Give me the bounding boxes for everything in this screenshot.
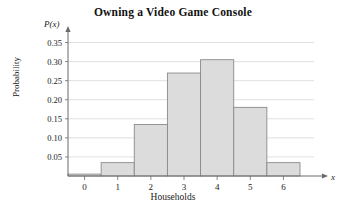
x-tick-label: 0 xyxy=(82,182,87,192)
x-tick-label: 6 xyxy=(281,182,286,192)
y-tick-label: 0.15 xyxy=(47,114,62,124)
y-tick-label: 0.10 xyxy=(47,133,62,143)
x-tick-label: 1 xyxy=(115,182,120,192)
y-tick-label: 0.35 xyxy=(47,38,62,48)
bar-2 xyxy=(134,125,167,176)
bar-1 xyxy=(101,163,134,176)
y-tick-label: 0.30 xyxy=(47,57,62,67)
x-tick-label: 3 xyxy=(182,182,187,192)
y-axis-ticks: 0.050.100.150.200.250.300.35 xyxy=(47,38,68,162)
bars xyxy=(68,60,300,176)
x-tick-label: 2 xyxy=(149,182,154,192)
bar-4 xyxy=(201,60,234,176)
y-tick-label: 0.05 xyxy=(47,152,62,162)
y-tick-label: 0.25 xyxy=(47,76,62,86)
bar-3 xyxy=(167,73,200,176)
y-tick-label: 0.20 xyxy=(47,95,62,105)
x-tick-label: 5 xyxy=(248,182,253,192)
chart-figure: Owning a Video Game Console P(x) x Proba… xyxy=(0,0,346,217)
x-axis-arrow-icon xyxy=(322,173,328,178)
bar-5 xyxy=(234,107,267,176)
bar-6 xyxy=(267,163,300,176)
plot-area: 0.050.100.150.200.250.300.35 0123456 xyxy=(0,0,346,217)
x-tick-label: 4 xyxy=(215,182,220,192)
x-axis-ticks: 0123456 xyxy=(82,176,286,192)
y-axis-arrow-icon xyxy=(65,26,70,32)
